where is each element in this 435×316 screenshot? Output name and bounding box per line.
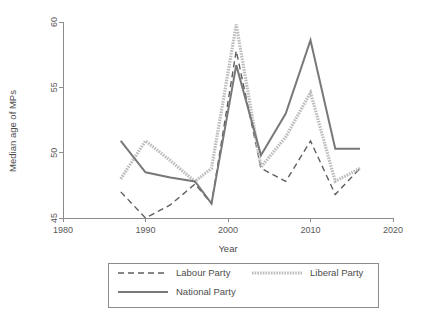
y-axis-title: Median age of MPs <box>7 90 18 172</box>
median-age-line-chart: 45505560 19801990200020102020 Median age… <box>0 0 435 316</box>
legend: Labour PartyLiberal PartyNational Party <box>108 263 378 307</box>
x-tick-label: 1980 <box>53 225 73 235</box>
x-tick-label: 2010 <box>300 225 320 235</box>
x-tick-label: 1990 <box>135 225 155 235</box>
plot-axes <box>63 22 393 218</box>
y-axis-ticks: 45505560 <box>49 17 63 223</box>
x-axis-ticks: 19801990200020102020 <box>53 218 403 235</box>
legend-label-national-party: National Party <box>176 286 236 297</box>
x-axis-title: Year <box>218 243 237 254</box>
legend-label-liberal-party: Liberal Party <box>310 267 364 278</box>
y-tick-label: 55 <box>49 82 59 92</box>
series-line-labour-party <box>121 51 360 218</box>
y-tick-label: 45 <box>49 213 59 223</box>
x-tick-label: 2020 <box>383 225 403 235</box>
chart-container: 45505560 19801990200020102020 Median age… <box>0 0 435 316</box>
x-tick-label: 2000 <box>218 225 238 235</box>
series-lines <box>121 25 360 218</box>
y-tick-label: 60 <box>49 17 59 27</box>
legend-label-labour-party: Labour Party <box>176 267 231 278</box>
series-line-national-party <box>121 40 360 203</box>
y-tick-label: 50 <box>49 148 59 158</box>
